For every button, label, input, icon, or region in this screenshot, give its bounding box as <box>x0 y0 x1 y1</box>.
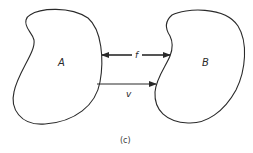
figure-caption: (c) <box>120 136 131 145</box>
edge-f-label: f <box>135 50 140 60</box>
blob-b-shape <box>155 10 245 123</box>
diagram-canvas: A B f v (c) <box>0 0 253 153</box>
node-a-label: A <box>57 57 65 68</box>
node-b-label: B <box>202 57 209 68</box>
edge-v-label: v <box>126 89 132 99</box>
